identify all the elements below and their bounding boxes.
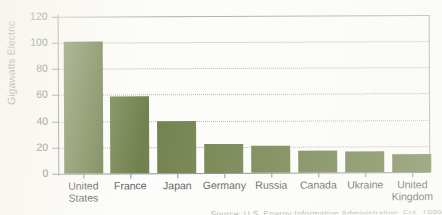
x-label-line: United	[372, 179, 442, 191]
x-label-line: Kingdom	[372, 190, 442, 202]
x-label-line: States	[43, 192, 123, 204]
bar-chart-figure: Gigawatts Electric 120 100 80 60 40 20 0	[0, 0, 442, 215]
x-label-united-kingdom: UnitedKingdom	[372, 179, 442, 202]
x-tick-mark-5	[318, 173, 319, 178]
y-tick-mark-40	[52, 122, 58, 123]
bar-france[interactable]	[110, 96, 149, 173]
y-tick-mark-60	[52, 95, 58, 96]
x-tick-mark-6	[365, 172, 366, 177]
y-tick-label-60: 60	[18, 89, 48, 100]
y-tick-mark-120	[52, 17, 58, 18]
y-tick-label-20: 20	[18, 142, 48, 153]
y-tick-label-0: 0	[18, 168, 48, 179]
y-tick-mark-20	[52, 148, 58, 149]
x-tick-mark-1	[130, 173, 131, 178]
y-tick-label-120: 120	[18, 11, 48, 22]
x-tick-mark-2	[177, 173, 178, 178]
x-tick-mark-4	[271, 173, 272, 178]
y-tick-label-40: 40	[18, 116, 48, 127]
bar-united-states[interactable]	[64, 41, 104, 173]
plot-frame-top	[58, 15, 430, 18]
bar-ukraine[interactable]	[345, 151, 384, 172]
bar-canada[interactable]	[298, 150, 337, 172]
y-tick-mark-100	[52, 43, 58, 44]
gridline-80	[58, 67, 430, 70]
bar-united-kingdom[interactable]	[392, 154, 431, 172]
bar-germany[interactable]	[204, 143, 243, 173]
y-axis-title: Gigawatts Electric	[5, 0, 18, 127]
x-axis-line	[58, 172, 430, 175]
gridline-100	[58, 41, 430, 44]
x-tick-mark-3	[224, 173, 225, 178]
x-tick-mark-0	[83, 174, 84, 179]
chart-skew-wrapper: Gigawatts Electric 120 100 80 60 40 20 0	[0, 0, 442, 215]
y-tick-label-100: 100	[18, 37, 48, 48]
x-tick-mark-7	[412, 172, 413, 177]
y-tick-mark-80	[52, 69, 58, 70]
plot-area	[58, 15, 431, 174]
figure-caption: Source: U.S. Energy Information Administ…	[210, 208, 442, 215]
bar-japan[interactable]	[157, 121, 196, 173]
y-tick-mark-0	[52, 174, 58, 175]
bar-russia[interactable]	[251, 145, 290, 173]
y-tick-label-80: 80	[18, 63, 48, 74]
